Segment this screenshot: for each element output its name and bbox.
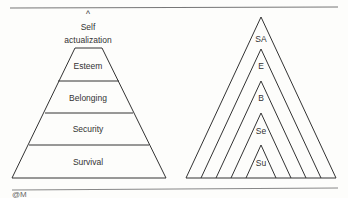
label-e: E: [258, 61, 264, 71]
diagram-canvas: ^ Self actualization Esteem Belonging Se…: [0, 0, 348, 198]
level-security: Security: [73, 124, 104, 134]
level-esteem: Esteem: [74, 61, 103, 71]
label-self: Self: [81, 22, 96, 32]
footer-mark: @M: [12, 190, 27, 198]
level-belonging: Belonging: [69, 93, 107, 103]
label-su: Su: [256, 158, 267, 168]
label-actualization: actualization: [64, 35, 112, 45]
top-rule: [10, 7, 338, 8]
level-survival: Survival: [73, 157, 103, 167]
label-b: B: [258, 93, 264, 103]
bottom-rule: [12, 188, 338, 190]
caret-icon: ^: [86, 9, 90, 19]
label-sa: SA: [255, 34, 267, 44]
label-se: Se: [256, 126, 267, 136]
